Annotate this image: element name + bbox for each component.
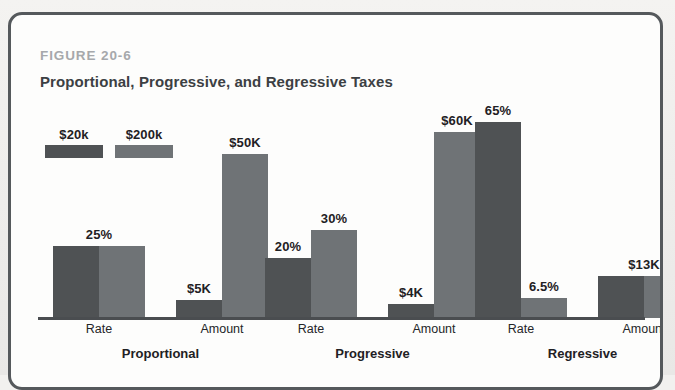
bar-column: 25% [53, 110, 99, 318]
bar-pair: $5K$50KAmount [176, 110, 268, 318]
bar-pair: 65%6.5%Rate [475, 110, 567, 318]
bar-value-label: 30% [321, 211, 347, 226]
bar-column: 6.5% [521, 110, 567, 318]
bar [388, 304, 434, 318]
bar-value-label: 6.5% [529, 279, 559, 294]
bar [265, 258, 311, 318]
figure-frame: FIGURE 20-6 Proportional, Progressive, a… [8, 12, 663, 390]
bar [99, 246, 145, 318]
bar-pair: 20%30%Rate [265, 110, 357, 318]
pair-axis-label: Amount [200, 322, 243, 336]
bar [475, 122, 521, 318]
bar-column [99, 110, 145, 318]
bar-column: 20% [265, 110, 311, 318]
bar-pair: 25%Rate [53, 110, 145, 318]
bar-pair: $4K$60KAmount [388, 110, 480, 318]
bar [53, 246, 99, 318]
bar [311, 230, 357, 318]
bar-column: $50K [222, 110, 268, 318]
bar-value-label: $4K [399, 285, 423, 300]
group-axis-label: Regressive [548, 346, 617, 361]
pair-axis-label: Rate [298, 322, 324, 336]
pair-axis-label: Rate [508, 322, 534, 336]
bar [644, 276, 663, 318]
bar-column: $13K [598, 110, 644, 318]
bar [222, 154, 268, 318]
bar-group: 65%6.5%Rate$13KAmountRegressive [475, 110, 663, 318]
bar-column: 30% [311, 110, 357, 318]
bar-value-label: $5K [187, 281, 211, 296]
bar [521, 298, 567, 318]
bar-column: $5K [176, 110, 222, 318]
group-axis-label: Progressive [335, 346, 409, 361]
pair-axis-label: Rate [86, 322, 112, 336]
bar [176, 300, 222, 318]
x-axis-line [38, 317, 645, 320]
figure-title: Proportional, Progressive, and Regressiv… [40, 73, 393, 90]
figure-number: FIGURE 20-6 [40, 48, 132, 63]
bar-group: 25%Rate$5K$50KAmountProportional [53, 110, 253, 318]
bar-value-label: 65% [485, 103, 511, 118]
group-axis-label: Proportional [122, 346, 199, 361]
bar-column: 65% [475, 110, 521, 318]
pair-axis-label: Amount [412, 322, 455, 336]
bar-column: $4K [388, 110, 434, 318]
bar-value-label: $50K [229, 135, 260, 150]
pair-axis-label: Amount [622, 322, 663, 336]
bar-pair: $13KAmount [598, 110, 663, 318]
bar-value-label: 20% [275, 239, 301, 254]
bar-column: $60K [434, 110, 480, 318]
bar [434, 132, 480, 318]
bar-value-label: $60K [441, 113, 472, 128]
bar-column [644, 110, 663, 318]
bar [598, 276, 644, 318]
bar-chart-plot-area: 25%Rate$5K$50KAmountProportional20%30%Ra… [38, 110, 638, 318]
bar-group: 20%30%Rate$4K$60KAmountProgressive [265, 110, 465, 318]
